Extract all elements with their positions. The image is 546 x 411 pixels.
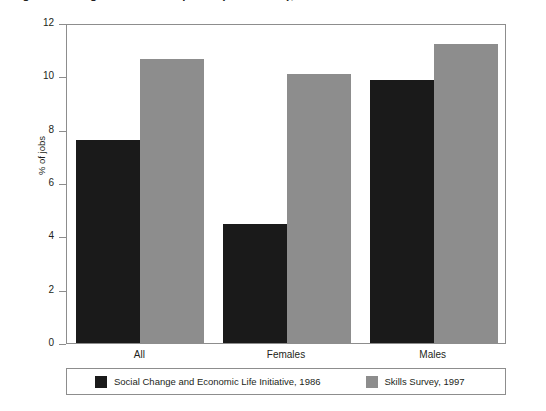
y-axis-tick: 6: [0, 184, 66, 185]
bar-males-series-1[interactable]: [434, 44, 498, 343]
y-axis-tick-mark: [59, 291, 66, 292]
x-axis-label-females: Females: [226, 349, 346, 360]
y-axis-tick-label: 4: [48, 230, 54, 242]
y-axis-tick-mark: [59, 131, 66, 132]
y-axis-tick: 10: [0, 77, 66, 78]
bar-all-series-1[interactable]: [140, 59, 204, 343]
y-axis-tick-label: 2: [48, 284, 54, 296]
y-axis-tick: 8: [0, 131, 66, 132]
legend-entry-series-1[interactable]: Skills Survey, 1997: [366, 376, 465, 388]
y-axis-label: % of jobs: [36, 111, 47, 201]
y-axis-tick-mark: [59, 24, 66, 25]
y-axis-tick: 4: [0, 237, 66, 238]
chart-legend: Social Change and Economic Life Initiati…: [66, 368, 506, 395]
y-axis-tick: 12: [0, 24, 66, 25]
y-axis-tick: 2: [0, 291, 66, 292]
y-axis-tick-mark: [59, 237, 66, 238]
legend-label-series-1: Skills Survey, 1997: [385, 376, 465, 387]
y-axis-tick-mark: [59, 344, 66, 345]
y-axis-tick-label: 8: [48, 124, 54, 136]
bar-males-series-0[interactable]: [370, 80, 434, 343]
y-axis-tick: 0: [0, 344, 66, 345]
y-axis-tick-mark: [59, 77, 66, 78]
y-axis-tick-label: 0: [48, 337, 54, 349]
y-axis-tick-label: 12: [43, 17, 54, 29]
chart-page: Figure 1 Change in use of computers (all…: [0, 0, 546, 411]
bar-all-series-0[interactable]: [76, 140, 140, 343]
figure-caption: Figure 1 Change in use of computers (all…: [12, 0, 353, 1]
y-axis-tick-label: 10: [43, 70, 54, 82]
x-axis-label-all: All: [79, 349, 199, 360]
y-axis-tick-mark: [59, 184, 66, 185]
bar-females-series-0[interactable]: [223, 224, 287, 343]
legend-swatch-icon-series-1: [366, 376, 378, 388]
x-axis-label-males: Males: [373, 349, 493, 360]
bar-females-series-1[interactable]: [287, 74, 351, 343]
legend-label-series-0: Social Change and Economic Life Initiati…: [114, 376, 321, 387]
legend-entry-series-0[interactable]: Social Change and Economic Life Initiati…: [95, 376, 321, 388]
legend-swatch-icon-series-0: [95, 376, 107, 388]
y-axis-tick-label: 6: [48, 177, 54, 189]
plot-area: [66, 24, 506, 344]
